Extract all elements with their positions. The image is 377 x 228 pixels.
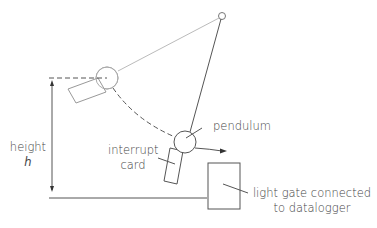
height-arrow-top-head — [50, 80, 54, 86]
pivot-point — [219, 13, 226, 20]
pendulum-string — [190, 19, 221, 132]
raised-interrupt-card — [68, 78, 106, 103]
raised-pendulum-string — [118, 18, 219, 71]
interrupt-card-label: interrupt card — [108, 143, 158, 173]
light-gate-label: light gate connected to datalogger — [250, 186, 374, 216]
pendulum-label: pendulum — [213, 119, 271, 134]
interrupt-card — [164, 148, 183, 184]
swing-arc-dashed — [113, 88, 175, 137]
velocity-arrow-head — [220, 149, 227, 154]
height-arrow-bottom-head — [50, 186, 54, 192]
velocity-arrow — [195, 148, 222, 151]
light-gate — [208, 163, 240, 209]
height-label: height h — [8, 140, 48, 170]
